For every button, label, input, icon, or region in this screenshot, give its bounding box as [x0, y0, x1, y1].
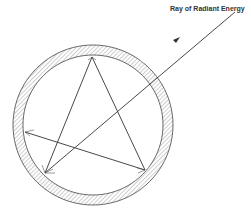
arrow-icon [173, 37, 180, 43]
cavity-wall [13, 45, 173, 205]
diagram: Ray of Radiant Energy [0, 0, 251, 219]
ray-paths [25, 12, 235, 173]
cavity-diagram [0, 0, 251, 219]
